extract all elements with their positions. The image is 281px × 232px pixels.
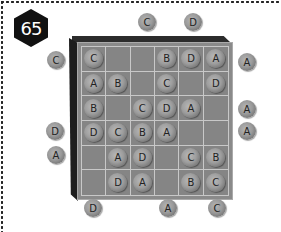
grid-cell[interactable]: B: [204, 146, 228, 171]
letter-token: C: [181, 148, 200, 167]
grid-cell[interactable]: [106, 47, 130, 72]
grid-cell[interactable]: [106, 96, 130, 121]
grid-cell[interactable]: C: [155, 72, 179, 97]
grid-cell[interactable]: A: [179, 96, 203, 121]
grid-cell[interactable]: C: [82, 47, 106, 72]
puzzle-number: 65: [21, 18, 42, 39]
grid-cell[interactable]: [82, 146, 106, 171]
letter-token: B: [206, 148, 225, 167]
grid-cell[interactable]: [155, 170, 179, 195]
grid-cell[interactable]: [179, 121, 203, 146]
dotted-border-top: [0, 0, 281, 4]
puzzle-grid: CBDAABCDBCDADCBAADCBDABC: [81, 46, 229, 196]
grid-cell[interactable]: [82, 170, 106, 195]
grid-cell[interactable]: D: [82, 121, 106, 146]
clue-token-left: C: [47, 51, 65, 69]
grid-cell[interactable]: B: [179, 170, 203, 195]
letter-token: D: [181, 49, 200, 68]
letter-token: D: [157, 99, 176, 118]
letter-token: C: [84, 49, 103, 68]
grid-cell[interactable]: A: [131, 170, 155, 195]
grid-cell[interactable]: A: [204, 47, 228, 72]
clue-token-left: A: [47, 146, 65, 164]
grid-cell[interactable]: A: [155, 121, 179, 146]
letter-token: B: [108, 74, 127, 93]
clue-token-bottom: A: [159, 199, 177, 217]
letter-token: A: [181, 99, 200, 118]
letter-token: C: [157, 74, 176, 93]
letter-token: B: [181, 173, 200, 192]
grid-cell[interactable]: [179, 72, 203, 97]
letter-token: A: [206, 49, 225, 68]
letter-token: D: [206, 74, 225, 93]
clue-token-top: D: [184, 13, 202, 31]
clue-token-bottom: D: [84, 199, 102, 217]
grid-cell[interactable]: [204, 121, 228, 146]
letter-token: A: [108, 148, 127, 167]
grid-cell[interactable]: B: [155, 47, 179, 72]
grid-cell[interactable]: [155, 146, 179, 171]
letter-token: B: [157, 49, 176, 68]
letter-token: A: [84, 74, 103, 93]
grid-cell[interactable]: C: [204, 170, 228, 195]
puzzle-board: CBDAABCDBCDADCBAADCBDABC: [77, 42, 233, 200]
letter-token: B: [84, 99, 103, 118]
clue-token-right: A: [238, 122, 256, 140]
puzzle-number-badge: 65: [14, 9, 48, 47]
letter-token: C: [133, 99, 152, 118]
letter-token: C: [108, 123, 127, 142]
grid-cell[interactable]: D: [106, 170, 130, 195]
clue-token-top: C: [138, 13, 156, 31]
grid-cell[interactable]: C: [179, 146, 203, 171]
letter-token: D: [84, 123, 103, 142]
grid-cell[interactable]: A: [106, 146, 130, 171]
grid-cell[interactable]: D: [204, 72, 228, 97]
clue-token-left: D: [46, 122, 64, 140]
letter-token: D: [108, 173, 127, 192]
grid-cell[interactable]: B: [82, 96, 106, 121]
grid-cell[interactable]: [131, 47, 155, 72]
grid-cell[interactable]: [204, 96, 228, 121]
grid-cell[interactable]: C: [131, 96, 155, 121]
letter-token: D: [133, 148, 152, 167]
letter-token: A: [157, 123, 176, 142]
letter-token: B: [133, 123, 152, 142]
grid-cell[interactable]: B: [131, 121, 155, 146]
dotted-border-left: [0, 0, 4, 232]
clue-token-right: A: [238, 100, 256, 118]
grid-cell[interactable]: B: [106, 72, 130, 97]
grid-cell[interactable]: A: [82, 72, 106, 97]
letter-token: C: [206, 173, 225, 192]
grid-cell[interactable]: D: [179, 47, 203, 72]
clue-token-right: A: [238, 53, 256, 71]
grid-cell[interactable]: D: [155, 96, 179, 121]
letter-token: A: [133, 173, 152, 192]
grid-cell[interactable]: D: [131, 146, 155, 171]
clue-token-bottom: C: [208, 199, 226, 217]
grid-cell[interactable]: [131, 72, 155, 97]
grid-cell[interactable]: C: [106, 121, 130, 146]
